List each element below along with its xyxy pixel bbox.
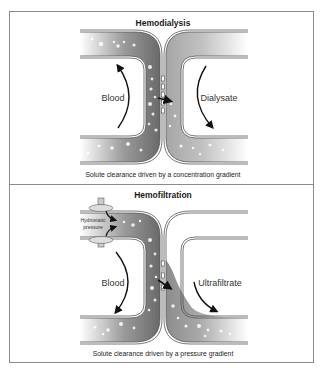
dialysate-label: Dialysate — [200, 93, 237, 103]
hemodialysis-panel: Hemodialysis — [80, 18, 248, 179]
panel-title: Hemofiltration — [134, 190, 192, 200]
diagram-canvas: Hemodialysis — [0, 0, 326, 378]
pressure-label-line1: Hydrostatic — [80, 217, 106, 223]
pressure-label-line2: pressure — [83, 224, 103, 230]
panel-title: Hemodialysis — [136, 18, 191, 28]
panel-caption: Solute clearance driven by a concentrati… — [86, 171, 241, 179]
blood-label: Blood — [101, 93, 124, 103]
ultrafiltrate-label: Ultrafiltrate — [198, 278, 242, 288]
panel-caption: Solute clearance driven by a pressure gr… — [93, 350, 234, 358]
blood-label: Blood — [101, 278, 124, 288]
membrane-pores — [162, 261, 165, 290]
hemofiltration-panel: Hemofiltration — [80, 190, 248, 358]
